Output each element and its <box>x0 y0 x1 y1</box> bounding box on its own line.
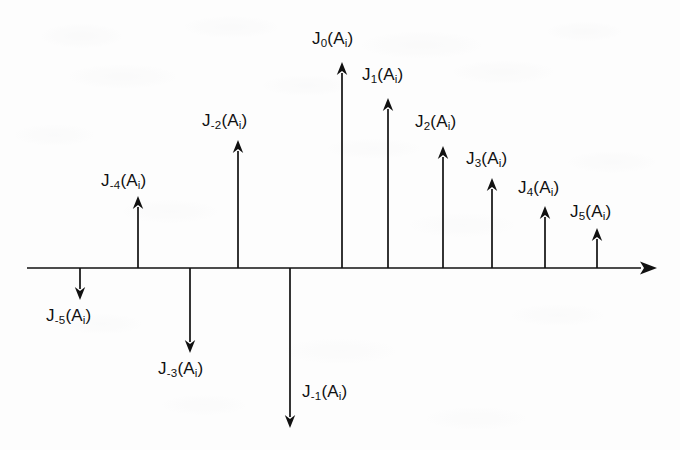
label-arg-close: ) <box>141 171 147 190</box>
label-base: J <box>202 111 211 130</box>
label-order-subscript: 2 <box>424 120 431 132</box>
label-arg-open: (A <box>321 382 338 401</box>
label-arg-close: ) <box>554 178 560 197</box>
label-arg-subscript: i <box>448 120 451 132</box>
label-order-subscript: 0 <box>321 37 328 49</box>
label-arg-close: ) <box>198 359 204 378</box>
label-arg-open: (A <box>481 149 498 168</box>
label-arg-subscript: i <box>395 73 398 85</box>
label-base: J <box>518 178 527 197</box>
label-base: J <box>101 171 110 190</box>
label-arg-subscript: i <box>339 390 342 402</box>
figure-canvas: J-5(Ai)J-4(Ai)J-3(Ai)J-2(Ai)J-1(Ai)J0(Ai… <box>0 0 680 450</box>
label-arg-close: ) <box>86 306 92 325</box>
label-order-subscript: 1 <box>371 73 378 85</box>
stem-label-j2: J2(Ai) <box>415 113 456 130</box>
stem-j0 <box>337 62 347 268</box>
axis-arrowhead-icon <box>640 262 657 275</box>
label-arg-subscript: i <box>195 367 198 379</box>
label-arg-open: (A <box>221 111 238 130</box>
label-order-subscript: -4 <box>110 179 121 191</box>
label-arg-subscript: i <box>603 210 606 222</box>
label-base: J <box>570 202 579 221</box>
stem-label-j1: J1(Ai) <box>362 66 403 83</box>
label-arg-subscript: i <box>345 37 348 49</box>
label-arg-open: (A <box>377 65 394 84</box>
label-order-subscript: -1 <box>311 390 322 402</box>
stem-j-5 <box>75 268 85 300</box>
label-base: J <box>362 65 371 84</box>
label-base: J <box>415 112 424 131</box>
label-arg-open: (A <box>120 171 137 190</box>
label-base: J <box>158 359 167 378</box>
stem-j1 <box>383 98 393 268</box>
stem-j-2 <box>233 140 243 268</box>
stem-j3 <box>487 178 497 268</box>
stem-arrows-group <box>75 62 602 428</box>
label-order-subscript: 5 <box>579 210 586 222</box>
stem-j4 <box>540 206 550 268</box>
label-arg-close: ) <box>502 149 508 168</box>
stem-j2 <box>438 146 448 268</box>
stem-label-j-1: J-1(Ai) <box>302 383 347 400</box>
stem-label-j-4: J-4(Ai) <box>101 172 146 189</box>
stem-label-j5: J5(Ai) <box>570 203 611 220</box>
stem-label-j3: J3(Ai) <box>466 150 507 167</box>
label-arg-close: ) <box>342 382 348 401</box>
label-order-subscript: -5 <box>55 314 66 326</box>
label-arg-subscript: i <box>239 119 242 131</box>
label-arg-open: (A <box>533 178 550 197</box>
stem-label-j-5: J-5(Ai) <box>46 307 91 324</box>
label-arg-subscript: i <box>83 314 86 326</box>
label-arg-subscript: i <box>551 186 554 198</box>
label-arg-open: (A <box>65 306 82 325</box>
stem-j-1 <box>285 268 295 428</box>
label-arg-open: (A <box>327 29 344 48</box>
stem-j-4 <box>133 196 143 268</box>
stem-j5 <box>592 228 602 268</box>
label-arg-open: (A <box>430 112 447 131</box>
label-arg-close: ) <box>398 65 404 84</box>
label-arg-close: ) <box>606 202 612 221</box>
label-arg-close: ) <box>451 112 457 131</box>
label-arg-subscript: i <box>499 157 502 169</box>
label-base: J <box>46 306 55 325</box>
stem-label-j-2: J-2(Ai) <box>202 112 247 129</box>
stem-j-3 <box>185 268 195 353</box>
label-arg-close: ) <box>242 111 248 130</box>
label-base: J <box>302 382 311 401</box>
label-order-subscript: 4 <box>527 186 534 198</box>
label-order-subscript: -3 <box>167 367 178 379</box>
label-arg-subscript: i <box>138 179 141 191</box>
stem-label-j-3: J-3(Ai) <box>158 360 203 377</box>
label-base: J <box>312 29 321 48</box>
stem-label-j4: J4(Ai) <box>518 179 559 196</box>
label-arg-close: ) <box>348 29 354 48</box>
label-base: J <box>466 149 475 168</box>
label-order-subscript: -2 <box>211 119 222 131</box>
label-arg-open: (A <box>585 202 602 221</box>
stem-label-j0: J0(Ai) <box>312 30 353 47</box>
label-order-subscript: 3 <box>475 157 482 169</box>
label-arg-open: (A <box>177 359 194 378</box>
